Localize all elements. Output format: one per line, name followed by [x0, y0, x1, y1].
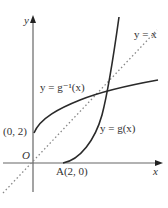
y-axis-label: y — [23, 14, 29, 26]
label-y-intercept: (0, 2) — [3, 125, 27, 138]
origin-label: O — [22, 149, 30, 161]
label-y-equals-x: y = x — [134, 28, 157, 40]
label-g-inverse: y = g⁻¹(x) — [40, 81, 85, 94]
graph: y x O y = x y = g⁻¹(x) y = g(x) (0, 2) A… — [0, 0, 168, 208]
label-g: y = g(x) — [100, 122, 136, 135]
label-point-a: A(2, 0) — [56, 165, 88, 178]
y-axis-arrow-icon — [30, 15, 36, 23]
x-axis-label: x — [152, 165, 158, 177]
